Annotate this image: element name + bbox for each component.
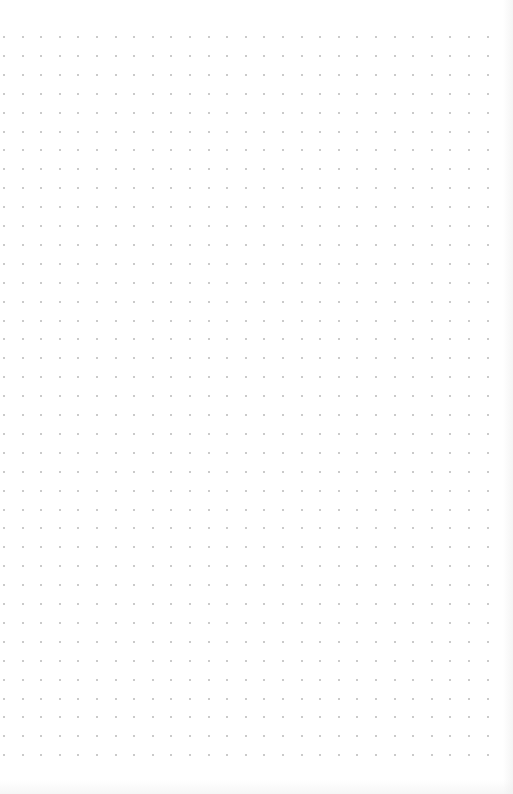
grid-dot: [412, 509, 414, 511]
grid-dot: [449, 735, 451, 737]
grid-dot: [133, 452, 135, 454]
grid-dot: [170, 263, 172, 265]
grid-dot: [431, 490, 433, 492]
grid-dot: [263, 244, 265, 246]
grid-dot: [77, 471, 79, 473]
grid-dot: [282, 244, 284, 246]
grid-dot: [487, 546, 489, 548]
grid-dot: [301, 546, 303, 548]
grid-dot: [96, 527, 98, 529]
grid-dot: [449, 395, 451, 397]
grid-dot: [59, 168, 61, 170]
grid-dot: [226, 527, 228, 529]
grid-dot: [263, 149, 265, 151]
grid-dot: [338, 414, 340, 416]
grid-dot: [431, 112, 433, 114]
grid-dot: [245, 622, 247, 624]
grid-dot: [226, 679, 228, 681]
grid-dot: [226, 754, 228, 756]
grid-dot: [449, 206, 451, 208]
grid-dot: [282, 471, 284, 473]
grid-dot: [189, 565, 191, 567]
grid-dot: [59, 244, 61, 246]
grid-dot: [245, 471, 247, 473]
grid-dot: [263, 376, 265, 378]
grid-dot: [412, 603, 414, 605]
grid-dot: [468, 376, 470, 378]
grid-dot: [301, 244, 303, 246]
grid-dot: [301, 112, 303, 114]
grid-dot: [263, 74, 265, 76]
grid-dot: [115, 716, 117, 718]
grid-dot: [22, 660, 24, 662]
grid-dot: [319, 509, 321, 511]
grid-dot: [152, 357, 154, 359]
grid-dot: [59, 395, 61, 397]
grid-dot: [431, 74, 433, 76]
grid-dot: [96, 565, 98, 567]
grid-dot: [319, 149, 321, 151]
grid-dot: [226, 206, 228, 208]
grid-dot: [170, 452, 172, 454]
grid-dot: [189, 74, 191, 76]
grid-dot: [245, 698, 247, 700]
grid-dot: [226, 698, 228, 700]
grid-dot: [431, 735, 433, 737]
grid-dot: [394, 509, 396, 511]
grid-dot: [282, 735, 284, 737]
grid-dot: [3, 55, 5, 57]
grid-dot: [152, 490, 154, 492]
grid-dot: [394, 641, 396, 643]
grid-dot: [394, 93, 396, 95]
grid-dot: [22, 357, 24, 359]
grid-dot: [3, 301, 5, 303]
grid-dot: [412, 433, 414, 435]
grid-dot: [282, 263, 284, 265]
grid-dot: [115, 320, 117, 322]
grid-dot: [115, 168, 117, 170]
grid-dot: [282, 149, 284, 151]
grid-dot: [226, 490, 228, 492]
grid-dot: [59, 149, 61, 151]
grid-dot: [263, 112, 265, 114]
grid-dot: [431, 244, 433, 246]
grid-dot: [449, 565, 451, 567]
grid-dot: [208, 357, 210, 359]
grid-dot: [96, 131, 98, 133]
grid-dot: [170, 206, 172, 208]
grid-dot: [301, 149, 303, 151]
grid-dot: [449, 584, 451, 586]
grid-dot: [152, 716, 154, 718]
grid-dot: [133, 603, 135, 605]
grid-dot: [319, 735, 321, 737]
grid-dot: [22, 490, 24, 492]
grid-dot: [59, 338, 61, 340]
grid-dot: [468, 698, 470, 700]
grid-dot: [245, 641, 247, 643]
grid-dot: [22, 338, 24, 340]
grid-dot: [226, 376, 228, 378]
grid-dot: [487, 603, 489, 605]
grid-dot: [170, 565, 172, 567]
grid-dot: [96, 149, 98, 151]
grid-dot: [338, 622, 340, 624]
grid-dot: [226, 660, 228, 662]
grid-dot: [59, 55, 61, 57]
grid-dot: [3, 603, 5, 605]
grid-dot: [356, 433, 358, 435]
grid-dot: [170, 490, 172, 492]
grid-dot: [468, 509, 470, 511]
grid-dot: [301, 679, 303, 681]
grid-dot: [449, 225, 451, 227]
grid-dot: [356, 414, 358, 416]
grid-dot: [431, 622, 433, 624]
grid-dot: [431, 414, 433, 416]
grid-dot: [319, 225, 321, 227]
grid-dot: [431, 168, 433, 170]
grid-dot: [170, 641, 172, 643]
grid-dot: [189, 716, 191, 718]
grid-dot: [40, 603, 42, 605]
grid-dot: [115, 376, 117, 378]
grid-dot: [189, 471, 191, 473]
grid-dot: [487, 149, 489, 151]
